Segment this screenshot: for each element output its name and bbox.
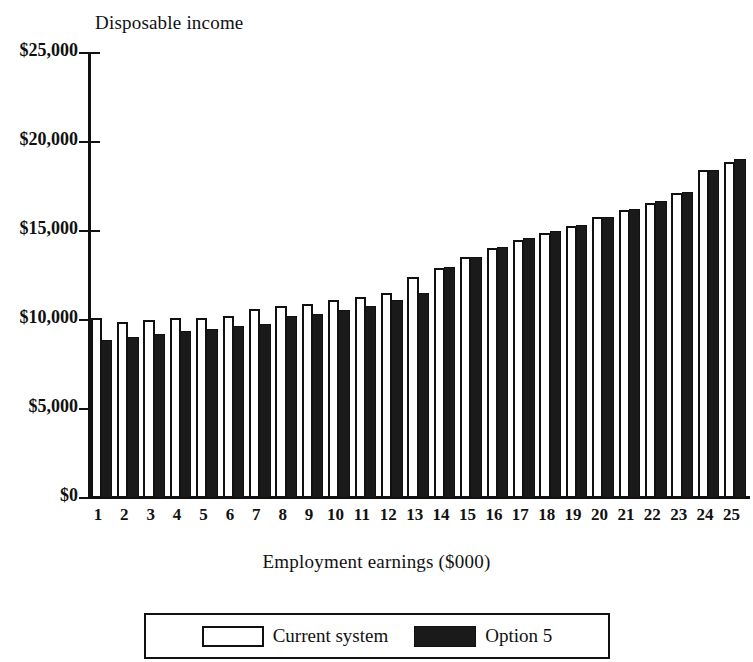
x-axis-tick-label: 3 xyxy=(139,505,162,525)
x-axis-tick-label: 11 xyxy=(351,505,374,525)
x-axis-tick-label: 19 xyxy=(562,505,585,525)
bar-option-5 xyxy=(101,340,112,498)
legend-item-option-5: Option 5 xyxy=(414,625,552,647)
bar-group xyxy=(592,53,618,498)
legend-label-current-system: Current system xyxy=(273,625,389,647)
x-axis-tick-label: 20 xyxy=(588,505,611,525)
bar-group xyxy=(355,53,381,498)
bar-group xyxy=(724,53,750,498)
bar-option-5 xyxy=(312,314,323,498)
bar-group xyxy=(434,53,460,498)
bar-group xyxy=(170,53,196,498)
bar-option-5 xyxy=(338,310,349,498)
bar-option-5 xyxy=(708,170,719,498)
x-axis-tick-label: 17 xyxy=(509,505,532,525)
bar-group xyxy=(566,53,592,498)
bar-option-5 xyxy=(127,337,138,498)
y-axis-tick-label: $20,000 xyxy=(0,129,78,150)
bar-group xyxy=(143,53,169,498)
bar-group xyxy=(619,53,645,498)
plot-area xyxy=(90,53,750,498)
bar-group xyxy=(302,53,328,498)
bar-group xyxy=(275,53,301,498)
bar-option-5 xyxy=(550,231,561,498)
bar-option-5 xyxy=(576,225,587,498)
x-axis-tick-label: 12 xyxy=(377,505,400,525)
x-axis-tick-label: 16 xyxy=(483,505,506,525)
x-axis-tick-label: 15 xyxy=(456,505,479,525)
x-axis-tick-label: 6 xyxy=(219,505,242,525)
bar-option-5 xyxy=(470,257,481,498)
bar-option-5 xyxy=(286,316,297,498)
x-axis-tick-label: 10 xyxy=(324,505,347,525)
x-axis-tick-label: 22 xyxy=(641,505,664,525)
chart-legend: Current system Option 5 xyxy=(144,613,610,659)
bar-option-5 xyxy=(523,238,534,498)
bar-group xyxy=(381,53,407,498)
x-axis-tick-label: 18 xyxy=(535,505,558,525)
bar-group xyxy=(249,53,275,498)
bar-option-5 xyxy=(206,329,217,498)
bar-option-5 xyxy=(180,331,191,498)
y-axis-tick-label: $25,000 xyxy=(0,40,78,61)
bar-option-5 xyxy=(233,326,244,498)
bar-option-5 xyxy=(602,217,613,498)
x-axis-tick-label: 24 xyxy=(694,505,717,525)
bar-option-5 xyxy=(444,267,455,498)
x-axis-tick-label: 23 xyxy=(667,505,690,525)
x-axis-title: Employment earnings ($000) xyxy=(0,551,753,573)
bar-group xyxy=(539,53,565,498)
bar-group xyxy=(91,53,117,498)
legend-swatch-current-system xyxy=(202,626,264,647)
legend-label-option-5: Option 5 xyxy=(485,625,552,647)
bar-group xyxy=(196,53,222,498)
bar-option-5 xyxy=(497,247,508,498)
x-axis-tick-label: 4 xyxy=(166,505,189,525)
bar-group xyxy=(407,53,433,498)
x-axis-tick-labels: 1234567891011121314151617181920212223242… xyxy=(90,505,750,533)
bar-option-5 xyxy=(734,159,745,498)
bar-group xyxy=(698,53,724,498)
bar-option-5 xyxy=(154,334,165,498)
bar-option-5 xyxy=(418,293,429,498)
x-axis-tick-label: 25 xyxy=(720,505,743,525)
y-axis-tick-label: $0 xyxy=(0,485,78,506)
y-axis-tick-label: $10,000 xyxy=(0,307,78,328)
bar-option-5 xyxy=(365,306,376,498)
bar-option-5 xyxy=(391,300,402,498)
bar-group xyxy=(671,53,697,498)
disposable-income-bar-chart: Disposable income $0$5,000$10,000$15,000… xyxy=(0,0,753,662)
x-axis-tick-label: 2 xyxy=(113,505,136,525)
bar-option-5 xyxy=(629,209,640,498)
x-axis-tick-label: 13 xyxy=(403,505,426,525)
bar-option-5 xyxy=(682,192,693,498)
bar-group xyxy=(487,53,513,498)
bar-group xyxy=(645,53,671,498)
legend-swatch-option-5 xyxy=(414,626,476,647)
x-axis-tick-label: 5 xyxy=(192,505,215,525)
x-axis-tick-label: 9 xyxy=(298,505,321,525)
y-axis-title: Disposable income xyxy=(95,12,244,34)
bar-group xyxy=(117,53,143,498)
bar-group xyxy=(513,53,539,498)
bar-option-5 xyxy=(655,201,666,498)
x-axis-tick-label: 7 xyxy=(245,505,268,525)
bar-series-container xyxy=(90,53,750,498)
x-axis-tick-label: 21 xyxy=(615,505,638,525)
x-axis-tick-label: 1 xyxy=(87,505,110,525)
bar-group xyxy=(328,53,354,498)
bar-group xyxy=(223,53,249,498)
y-axis-tick-label: $5,000 xyxy=(0,396,78,417)
y-axis-tick-label: $15,000 xyxy=(0,218,78,239)
x-axis-tick-label: 8 xyxy=(271,505,294,525)
x-axis-tick-label: 14 xyxy=(430,505,453,525)
legend-item-current-system: Current system xyxy=(202,625,389,647)
bar-option-5 xyxy=(259,324,270,498)
bar-group xyxy=(460,53,486,498)
